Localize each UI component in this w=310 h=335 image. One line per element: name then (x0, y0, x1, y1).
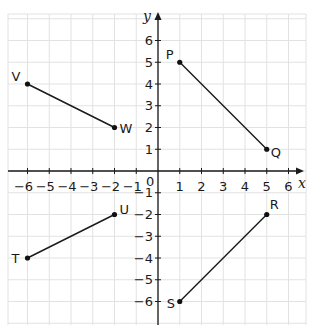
x-tick-label: 4 (241, 179, 249, 194)
point-s (177, 299, 182, 304)
grid-lines (8, 14, 306, 325)
y-tick-label: 2 (145, 120, 153, 135)
y-tick-label: 3 (145, 98, 153, 113)
tick-labels: xy0−6−5−4−3−2−1123456654321−1−2−3−4−5−6 (14, 8, 306, 309)
y-tick-label: −3 (134, 229, 153, 244)
y-axis-arrow-icon (155, 12, 162, 20)
y-tick-label: −1 (134, 185, 153, 200)
point-label-p: P (166, 47, 174, 62)
point-label-v: V (12, 69, 21, 84)
y-tick-label: 1 (145, 142, 153, 157)
x-tick-label: −6 (14, 179, 33, 194)
point-q (264, 147, 269, 152)
coordinate-plane: xy0−6−5−4−3−2−1123456654321−1−2−3−4−5−6 … (0, 0, 310, 335)
y-tick-label: 6 (145, 33, 153, 48)
y-tick-label: −2 (134, 207, 153, 222)
x-tick-label: −3 (79, 179, 98, 194)
point-label-q: Q (271, 145, 281, 160)
x-axis-label: x (298, 175, 306, 191)
point-label-u: U (120, 202, 130, 217)
x-tick-label: 2 (197, 179, 205, 194)
point-label-t: T (11, 251, 20, 266)
x-tick-label: 3 (219, 179, 227, 194)
point-u (112, 212, 117, 217)
y-tick-label: −5 (134, 272, 153, 287)
x-tick-label: −4 (57, 179, 76, 194)
point-w (112, 125, 117, 130)
point-label-r: R (270, 197, 279, 212)
y-tick-label: −6 (134, 294, 153, 309)
axes (8, 12, 304, 325)
x-tick-label: 1 (176, 179, 184, 194)
point-t (25, 255, 30, 260)
y-axis-label: y (142, 8, 152, 24)
x-tick-label: 5 (263, 179, 271, 194)
x-axis-arrow-icon (296, 168, 304, 175)
point-r (264, 212, 269, 217)
x-tick-label: 6 (284, 179, 292, 194)
point-v (25, 81, 30, 86)
y-tick-label: −4 (134, 251, 153, 266)
point-p (177, 60, 182, 65)
y-tick-label: 4 (145, 77, 153, 92)
x-tick-label: −5 (36, 179, 55, 194)
point-label-w: W (120, 121, 133, 136)
y-tick-label: 5 (145, 55, 153, 70)
point-label-s: S (167, 296, 175, 311)
x-tick-label: −2 (101, 179, 120, 194)
